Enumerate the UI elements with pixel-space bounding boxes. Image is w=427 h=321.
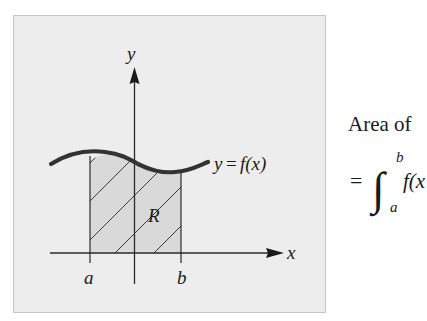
curve-label-rhs: f(x) (240, 153, 266, 175)
region-r-fill (90, 153, 181, 253)
area-under-curve-diagram: y x a b R y = f(x) Area of = ∫ b a f(x (0, 0, 427, 321)
x-axis-arrow-icon (266, 248, 284, 258)
x-axis-label: x (286, 242, 296, 263)
formula-upper-limit: b (396, 149, 404, 165)
formula-lower-limit: a (390, 199, 398, 215)
formula-integrand: f(x (403, 169, 426, 193)
y-axis-label: y (125, 43, 136, 64)
curve-equation-label: y = f(x) (212, 153, 266, 175)
formula-integral-sign: ∫ (369, 163, 387, 217)
upper-bound-label: b (177, 267, 187, 288)
lower-bound-label: a (84, 267, 94, 288)
curve-label-equals: = (226, 153, 237, 174)
region-label: R (147, 205, 160, 226)
y-axis-arrow-icon (130, 67, 140, 84)
curve-label-lhs: y (212, 153, 223, 174)
formula-equals: = (350, 168, 362, 193)
formula-area-of: Area of (348, 112, 412, 136)
